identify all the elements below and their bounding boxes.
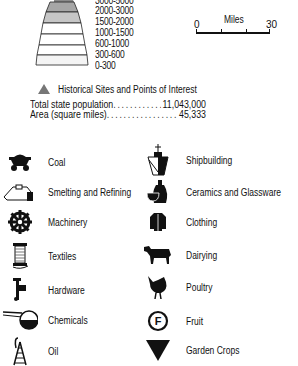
hardware-tool-icon bbox=[2, 275, 38, 305]
legend-item-fruit: F Fruit bbox=[140, 306, 206, 336]
elevation-band-label: 0-300 bbox=[95, 61, 115, 71]
ship-icon bbox=[140, 145, 176, 175]
legend-label: Shipbuilding bbox=[186, 155, 232, 166]
scale-title: Miles bbox=[224, 14, 244, 25]
stat-value: 45,333 bbox=[179, 110, 206, 120]
legend-label: Smelting and Refining bbox=[48, 187, 131, 198]
legend-item-oil: Oil bbox=[2, 336, 60, 366]
coal-cart-icon bbox=[2, 147, 38, 177]
legend-label: Hardware bbox=[48, 285, 85, 296]
chicken-icon bbox=[140, 272, 176, 302]
legend-item-machinery: Machinery bbox=[2, 207, 94, 237]
legend-label: Poultry bbox=[186, 282, 212, 293]
vase-bowl-icon bbox=[140, 177, 176, 207]
elevation-legend-shape bbox=[34, 0, 90, 66]
leader-dots: ........................................… bbox=[113, 100, 161, 110]
oil-derrick-icon bbox=[2, 336, 38, 366]
fruit-f-icon: F bbox=[140, 306, 176, 336]
legend-label: Oil bbox=[48, 346, 58, 357]
legend-item-textiles: Textiles bbox=[2, 241, 81, 271]
coat-icon bbox=[140, 207, 176, 237]
legend-label: Dairying bbox=[186, 250, 217, 261]
svg-text:F: F bbox=[155, 315, 162, 327]
legend-item-clothing: Clothing bbox=[140, 207, 223, 237]
legend-item-garden-crops: Garden Crops bbox=[140, 335, 249, 365]
scale-tick bbox=[196, 29, 197, 33]
spool-icon bbox=[2, 241, 38, 271]
stat-label: Area (square miles) bbox=[30, 110, 107, 120]
gear-icon bbox=[2, 207, 38, 237]
historical-sites-legend: Historical Sites and Points of Interest bbox=[38, 82, 221, 96]
legend-item-ceramics: Ceramics and Glassware bbox=[140, 177, 298, 207]
cow-icon bbox=[140, 240, 176, 270]
legend-item-coal: Coal bbox=[2, 147, 69, 177]
elevation-band-label: 1000-1500 bbox=[95, 28, 133, 38]
elevation-band-label: 1500-2000 bbox=[95, 17, 133, 27]
smelting-furnace-icon bbox=[2, 177, 38, 207]
historical-sites-label: Historical Sites and Points of Interest bbox=[58, 84, 197, 95]
legend-item-smelting: Smelting and Refining bbox=[2, 177, 146, 207]
legend-label: Clothing bbox=[186, 217, 217, 228]
legend-label: Machinery bbox=[48, 217, 87, 228]
legend-item-hardware: Hardware bbox=[2, 275, 91, 305]
legend-item-chemicals: Chemicals bbox=[2, 305, 95, 335]
legend-label: Ceramics and Glassware bbox=[186, 187, 281, 198]
stat-area: Area (square miles) ....................… bbox=[30, 110, 206, 120]
legend-label: Garden Crops bbox=[186, 345, 239, 356]
scale-max: 30 bbox=[266, 19, 277, 30]
legend-label: Coal bbox=[48, 157, 65, 168]
legend-label: Fruit bbox=[186, 316, 203, 327]
elevation-band-label: 300-600 bbox=[95, 50, 124, 60]
scale-tick bbox=[246, 29, 247, 33]
scale-tick bbox=[269, 29, 270, 33]
legend-item-shipbuilding: Shipbuilding bbox=[140, 145, 241, 175]
scale-tick bbox=[221, 29, 222, 33]
scale-line bbox=[196, 32, 270, 34]
leader-dots: ........................................… bbox=[107, 110, 178, 120]
elevation-band-label: 600-1000 bbox=[95, 39, 129, 49]
legend-item-poultry: Poultry bbox=[140, 272, 217, 302]
legend-label: Chemicals bbox=[48, 315, 88, 326]
scale-bar: Miles 0 30 bbox=[166, 14, 278, 36]
legend-item-dairying: Dairying bbox=[140, 240, 223, 270]
legend-label: Textiles bbox=[48, 251, 76, 262]
inverted-triangle-icon bbox=[140, 335, 176, 365]
elevation-band-label: 2000-3000 bbox=[95, 6, 133, 16]
triangle-icon bbox=[38, 84, 50, 94]
retort-flask-icon bbox=[2, 305, 38, 335]
